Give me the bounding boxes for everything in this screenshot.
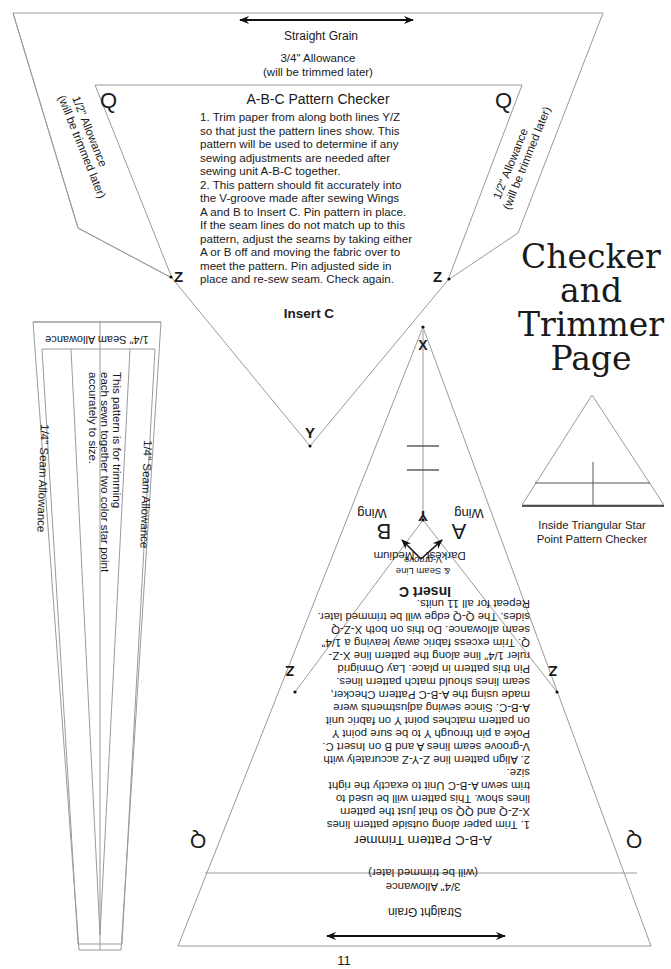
- svg-text:seam lines should match patter: seam lines should match pattern lines.: [336, 676, 530, 688]
- trimmer-label-z-left: Z: [285, 663, 294, 680]
- trimmer-point-x: [421, 325, 424, 328]
- svg-text:pattern will be used to determ: pattern will be used to determine if any: [200, 137, 399, 150]
- svg-text:place and re-sew seam. Check a: place and re-sew seam. Check again.: [200, 272, 394, 285]
- svg-text:meet the pattern. Pin adjusted: meet the pattern. Pin adjusted side in: [200, 259, 391, 272]
- svg-text:1. Trim paper along outside p: 1. Trim paper along outside pattern line…: [326, 819, 530, 831]
- trimmer-label-y: Y: [418, 508, 428, 525]
- svg-text:made using the A-B-C Pattern C: made using the A-B-C Pattern Checker,: [331, 689, 530, 701]
- checker-point-y: [308, 444, 311, 447]
- svg-text:pattern, adjust the seams by t: pattern, adjust the seams by taking eith…: [200, 232, 412, 245]
- trimmer-label-x: X: [418, 337, 428, 353]
- checker-title: A-B-C Pattern Checker: [246, 91, 389, 107]
- strip-right-label: 1/4" Seam Allowance: [138, 440, 154, 549]
- checker-label-y: Y: [305, 424, 315, 441]
- strip-left-label: 1/4" Seam Allowance: [35, 424, 51, 533]
- trimmer-label-z-right: Z: [548, 663, 557, 680]
- checker-grain-label: Straight Grain: [284, 29, 358, 43]
- svg-text:Q. Trim excess fabric away lea: Q. Trim excess fabric away leaving a 1/4…: [321, 637, 530, 649]
- svg-text:This pattern is for trimming: This pattern is for trimming: [111, 372, 123, 508]
- svg-text:sewing adjustments are needed: sewing adjustments are needed after: [200, 151, 390, 164]
- svg-text:size.: size.: [507, 767, 530, 779]
- abc-pattern-trimmer: X Wing A Darkest Wing B Medium Y V-groov…: [178, 325, 651, 946]
- checker-label-z-left: Z: [174, 268, 183, 285]
- trimmer-allowance-line1: 3/4" Allowance: [385, 881, 460, 893]
- trimmer-instructions: Repeat for all 11 units. sides. The Q-Q …: [317, 598, 530, 831]
- trimmer-allowance-line2: (will be trimmed later): [368, 867, 478, 879]
- svg-text:V-groove seam lines A and B on: V-groove seam lines A and B on Insert C.: [322, 741, 530, 753]
- page-title: Checker and Trimmer Page: [518, 237, 664, 378]
- svg-text:1. Trim paper from along both: 1. Trim paper from along both lines Y/Z: [200, 110, 400, 123]
- inside-triangular-star-point-checker: Inside Triangular Star Point Pattern Che…: [522, 395, 664, 545]
- page-number: 11: [337, 953, 351, 968]
- svg-text:X-Z-Q and QQ so that just the: X-Z-Q and QQ so that just the pattern: [340, 806, 530, 818]
- checker-label-z-right: Z: [433, 268, 442, 285]
- checker-top-allowance-line1: 3/4" Allowance: [280, 52, 355, 64]
- strip-top-label: 1/4" Seam Allowance: [45, 334, 149, 346]
- svg-text:Poke a pin through Y to be sur: Poke a pin through Y to be sure point Y: [331, 728, 530, 740]
- wing-b-word: Wing: [357, 506, 387, 521]
- small-checker-caption-line2: Point Pattern Checker: [537, 533, 648, 545]
- svg-text:2. This pattern should fit ac: 2. This pattern should fit accurately in…: [200, 178, 402, 191]
- trimmer-corner-q-left: Q: [190, 830, 206, 853]
- svg-text:Repeat for all 11 units.: Repeat for all 11 units.: [417, 598, 530, 610]
- wing-a-letter: A: [451, 519, 466, 544]
- svg-text:so that just the pattern lines: so that just the pattern lines show. Thi…: [200, 124, 400, 137]
- svg-text:accurately to size.: accurately to size.: [87, 372, 99, 464]
- trimmer-insert-c-label: Insert C: [399, 584, 451, 600]
- pattern-page: Straight Grain 3/4" Allowance (will be t…: [0, 0, 671, 969]
- checker-top-allowance-line2: (will be trimmed later): [263, 66, 373, 78]
- vgroove-label-line2: & Seam Line: [396, 566, 450, 577]
- svg-text:sides. The Q-Q edge will be tr: sides. The Q-Q edge will be trimmed late…: [317, 611, 530, 623]
- svg-text:2. Align pattern line Z-Y-Z a: 2. Align pattern line Z-Y-Z accurately w…: [323, 754, 530, 766]
- trimmer-title: A-B-C Pattern Trimmer: [354, 833, 492, 848]
- wing-b-letter: B: [377, 519, 392, 544]
- checker-point-z-left: [169, 275, 172, 278]
- checker-instructions: 1. Trim paper from along both lines Y/Z …: [200, 110, 412, 285]
- svg-text:If the seam lines do not match: If the seam lines do not match up to thi…: [200, 218, 405, 231]
- checker-corner-q-right: Q: [495, 88, 512, 113]
- wing-a-word: Wing: [454, 506, 484, 521]
- trimmer-point-z-right: [555, 690, 558, 693]
- svg-text:each sewn together two color s: each sewn together two color star point: [99, 372, 111, 573]
- svg-text:lines show. This pattern will: lines show. This pattern will be used to: [336, 793, 530, 805]
- star-point-strip-trimmer: 1/4" Seam Allowance 1/4" Seam Allowance …: [33, 322, 161, 950]
- svg-text:seam allowance. Do this on bot: seam allowance. Do this on both X-Z-Q: [331, 624, 530, 636]
- trimmer-grain-label: Straight Grain: [388, 905, 462, 919]
- trimmer-corner-q-right: Q: [626, 830, 642, 853]
- checker-corner-q-left: Q: [100, 88, 117, 113]
- trimmer-point-z-left: [293, 690, 296, 693]
- small-checker-caption-line1: Inside Triangular Star: [538, 519, 646, 531]
- svg-text:A-B-C. Since sewing adjustment: A-B-C. Since sewing adjustments were: [333, 702, 530, 714]
- svg-text:the V-groove made after sewing: the V-groove made after sewing Wings: [200, 191, 399, 204]
- vgroove-label-line1: V-groove: [404, 555, 442, 566]
- svg-text:ruler 1/4" line along the patt: ruler 1/4" line along the pattern line X…: [328, 650, 530, 662]
- svg-text:Page: Page: [550, 339, 631, 378]
- svg-text:A and B to Insert C. Pin patte: A and B to Insert C. Pin pattern in plac…: [200, 205, 406, 218]
- svg-text:trim sewn A-B-C Unit to exactl: trim sewn A-B-C Unit to exactly the righ…: [328, 780, 530, 792]
- svg-text:A or B off and moving the fabr: A or B off and moving the fabric over to: [200, 245, 400, 258]
- svg-text:on pattern matches point Y on: on pattern matches point Y on fabric uni…: [325, 715, 530, 727]
- svg-text:sewing unit A-B-C together.: sewing unit A-B-C together.: [200, 164, 341, 177]
- strip-description: This pattern is for trimming each sewn t…: [87, 372, 123, 573]
- checker-point-z-right: [447, 277, 450, 280]
- svg-text:Pin this pattern in place. Lay: Pin this pattern in place. Lay Omnigrid: [338, 663, 530, 675]
- checker-insert-c-label: Insert C: [284, 306, 335, 321]
